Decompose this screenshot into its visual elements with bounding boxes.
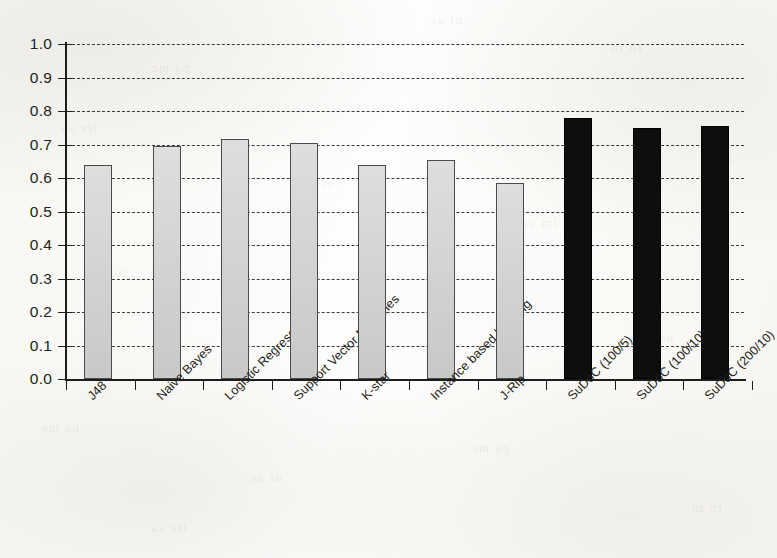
bar	[633, 128, 661, 379]
y-axis-tick-label: 0.9	[0, 69, 52, 87]
bar	[564, 118, 592, 379]
y-axis-tick-label: 0.6	[0, 169, 52, 187]
bar	[427, 160, 455, 379]
y-axis-tick-label: 0.2	[0, 303, 52, 321]
y-axis-tick-label: 0.8	[0, 102, 52, 120]
y-axis-line	[65, 42, 67, 381]
x-axis-tick-mark	[752, 381, 753, 390]
bar	[153, 146, 181, 379]
x-axis-tick-mark	[546, 381, 547, 390]
gridline	[67, 44, 744, 45]
y-axis-tick-label: 0.0	[0, 370, 52, 388]
x-axis-tick-mark	[478, 381, 479, 390]
bar	[701, 126, 729, 379]
chart-page: ni aspa mcro tnire saos dslm ueta ehro t…	[0, 0, 777, 558]
x-axis-tick-mark	[683, 381, 684, 390]
bar	[221, 139, 249, 379]
y-axis-tick-label: 1.0	[0, 35, 52, 53]
y-axis-tick-label: 0.1	[0, 337, 52, 355]
y-axis-tick-label: 0.7	[0, 136, 52, 154]
y-axis-tick-label: 0.3	[0, 270, 52, 288]
x-axis-tick-mark	[272, 381, 273, 390]
gridline	[67, 111, 744, 112]
bar	[358, 165, 386, 379]
bar	[496, 183, 524, 379]
x-axis-tick-mark	[615, 381, 616, 390]
x-axis-tick-mark	[135, 381, 136, 390]
y-axis-tick-label: 0.5	[0, 203, 52, 221]
y-axis-tick-label: 0.4	[0, 236, 52, 254]
gridline	[67, 78, 744, 79]
x-axis-tick-mark	[203, 381, 204, 390]
x-axis-tick-label: J48	[85, 378, 109, 402]
bar-chart-plot-area: 1.00.90.80.70.60.50.40.30.20.10.0J48Naiv…	[0, 0, 777, 558]
x-axis-tick-mark	[409, 381, 410, 390]
bar	[290, 143, 318, 379]
x-axis-tick-mark	[340, 381, 341, 390]
x-axis-tick-mark	[66, 381, 67, 390]
bar	[84, 165, 112, 379]
